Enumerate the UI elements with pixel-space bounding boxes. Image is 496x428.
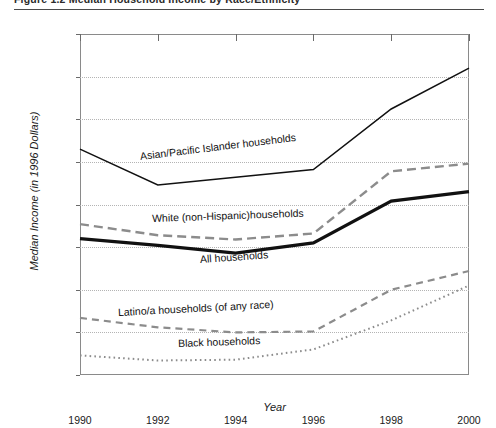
- x-tick-label: 1998: [361, 414, 421, 426]
- chart-figure: Figure 1.2 Median Household Income by Ra…: [0, 0, 496, 428]
- title-divider: [14, 9, 484, 10]
- x-tick-label: 1996: [283, 414, 343, 426]
- series-line: [80, 68, 469, 185]
- series-line: [80, 271, 469, 332]
- x-tick-label: 2000: [439, 414, 496, 426]
- y-axis-label: Median Income (in 1996 Dollars): [28, 91, 40, 291]
- x-tick-mark: [469, 34, 470, 41]
- x-tick-label: 1992: [128, 414, 188, 426]
- series-line: [80, 164, 469, 240]
- series-lines: [80, 34, 469, 375]
- figure-title-strip: Figure 1.2 Median Household Income by Ra…: [14, 0, 484, 8]
- x-axis-label: Year: [80, 401, 469, 413]
- figure-title: Figure 1.2 Median Household Income by Ra…: [14, 0, 300, 5]
- x-tick-label: 1990: [50, 414, 110, 426]
- y-tick-mark: [76, 375, 80, 376]
- plot-area: $60,000$55,000$50,000$45,000$40,000$35,0…: [80, 34, 469, 375]
- x-tick-label: 1994: [206, 414, 266, 426]
- series-line: [80, 286, 469, 361]
- series-line: [80, 192, 469, 253]
